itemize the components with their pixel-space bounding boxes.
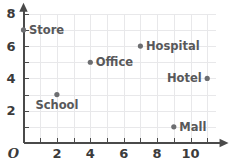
x-axis-tick-label: 8 [153,146,162,161]
data-point-label: Store [29,23,64,37]
y-axis-tick-label: 6 [6,39,15,54]
data-point-marker [205,76,210,81]
data-point-label: School [35,98,78,112]
scatter-plot-canvas: 2468102468 O StoreHospitalOfficeHotelSch… [0,0,229,162]
y-axis-tick-label: 8 [6,6,15,21]
data-point-marker [88,60,93,65]
x-axis-tick-label: 10 [181,146,199,161]
origin-label: O [8,146,20,161]
y-axis-tick-label: 4 [6,71,15,86]
origin-label-text: O [8,146,20,161]
x-axis-arrowhead [220,139,229,147]
x-axis-tick-label: 2 [52,146,61,161]
x-axis-tick-label: 6 [119,146,128,161]
data-point-label: Office [96,55,133,69]
data-point-marker [21,27,26,32]
data-point-label: Mall [179,120,206,134]
data-point-marker [171,124,176,129]
scatter-plot-figure: 2468102468 O StoreHospitalOfficeHotelSch… [0,0,229,162]
y-axis-tick-label: 2 [6,103,15,118]
x-axis-tick-label: 4 [86,146,95,161]
data-point-marker [138,44,143,49]
y-axis-arrowhead [19,3,27,12]
data-point-label: Hospital [146,39,200,53]
data-point-marker [54,92,59,97]
data-point-label: Hotel [167,71,202,85]
